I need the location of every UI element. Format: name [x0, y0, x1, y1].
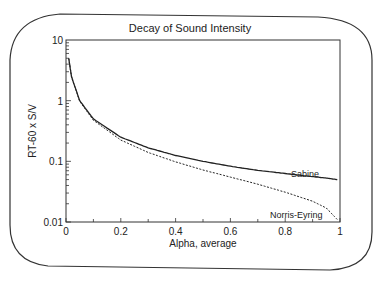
sabine-label: Sabine	[291, 169, 319, 179]
norris-eyring-curve	[69, 58, 338, 219]
sabine-curve	[69, 58, 338, 179]
x-axis: 00.20.40.60.81	[63, 218, 343, 237]
y-tick-label: 0.1	[49, 156, 63, 167]
y-axis-label: RT-60 x S/V	[27, 104, 38, 158]
y-axis: 0.010.1110	[44, 35, 71, 228]
norris-eyring-label: Norris-Eyring	[270, 210, 323, 220]
y-tick-label: 10	[52, 35, 64, 46]
x-tick-label: 1	[337, 226, 343, 237]
x-tick-label: 0.2	[114, 226, 128, 237]
x-axis-label: Alpha, average	[169, 238, 237, 249]
plot-area	[66, 40, 340, 222]
x-tick-label: 0.8	[278, 226, 292, 237]
chart-figure: Decay of Sound Intensity 0.010.1110 00.2…	[0, 0, 380, 283]
x-tick-label: 0.4	[169, 226, 183, 237]
chart-title: Decay of Sound Intensity	[129, 22, 252, 34]
x-tick-label: 0.6	[223, 226, 237, 237]
y-tick-label: 1	[57, 96, 63, 107]
y-tick-label: 0.01	[44, 217, 64, 228]
x-tick-label: 0	[63, 226, 69, 237]
